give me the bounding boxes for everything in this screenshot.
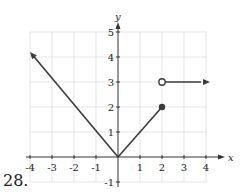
y-tick-label: 4: [108, 52, 114, 63]
curve-left-branch: [33, 56, 118, 157]
x-tick-label: 4: [203, 162, 209, 173]
piecewise-graph: xy-4-3-2-11234-112345: [0, 0, 243, 194]
x-tick-label: -2: [69, 162, 79, 173]
x-axis-label: x: [228, 152, 234, 163]
x-tick-label: 3: [181, 162, 187, 173]
x-tick-label: -3: [47, 162, 57, 173]
tick-labels: xy-4-3-2-11234-112345: [25, 11, 234, 188]
y-tick-label: 5: [108, 27, 114, 38]
y-tick-label: -1: [104, 177, 114, 188]
open-dot-icon: [159, 79, 165, 85]
curve-right-ray: [159, 79, 201, 85]
x-tick-label: -1: [91, 162, 101, 173]
arrow-right-icon: [203, 79, 210, 85]
y-axis-arrow-icon: [116, 22, 121, 29]
y-tick-label: 3: [108, 77, 114, 88]
x-tick-label: 2: [159, 162, 165, 173]
y-tick-label: 2: [108, 102, 114, 113]
curve-middle-segment: [118, 104, 165, 157]
y-tick-label: 1: [108, 127, 114, 138]
function-curves: [30, 52, 210, 157]
x-tick-label: 1: [137, 162, 143, 173]
closed-dot-icon: [159, 104, 165, 110]
y-axis-label: y: [114, 11, 121, 22]
x-axis-arrow-icon: [218, 155, 225, 160]
curve-line: [33, 56, 118, 157]
problem-number: 28.: [3, 171, 28, 190]
